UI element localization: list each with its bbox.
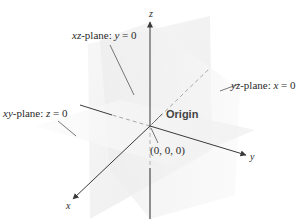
yz-plane-label: yz-plane: x = 0: [231, 79, 296, 91]
coordinate-diagram: z y x xz-plane: y = 0 yz-plane: x = 0 xy…: [0, 0, 299, 219]
xy-plane-label: xy-plane: z = 0: [3, 107, 68, 119]
xz-plane-label: xz-plane: y = 0: [72, 29, 137, 41]
y-axis-label: y: [250, 151, 254, 163]
origin-coordinates: (0, 0, 0): [150, 144, 185, 156]
x-axis-label: x: [66, 200, 70, 212]
z-axis-label: z: [149, 8, 153, 20]
origin-label: Origin: [166, 108, 198, 120]
